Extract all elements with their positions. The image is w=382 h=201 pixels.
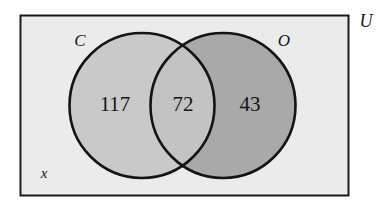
set-label-c: C: [74, 31, 86, 50]
outside-element-label: x: [40, 165, 48, 181]
region-count-o-only: 43: [240, 92, 261, 116]
venn-diagram-canvas: 117 72 43 C O U x: [0, 0, 382, 201]
set-label-o: O: [278, 31, 290, 50]
universal-set-label: U: [360, 11, 374, 31]
region-count-intersection: 72: [173, 92, 194, 116]
region-count-c-only: 117: [100, 92, 131, 116]
venn-diagram-figure: 117 72 43 C O U x: [0, 0, 382, 201]
